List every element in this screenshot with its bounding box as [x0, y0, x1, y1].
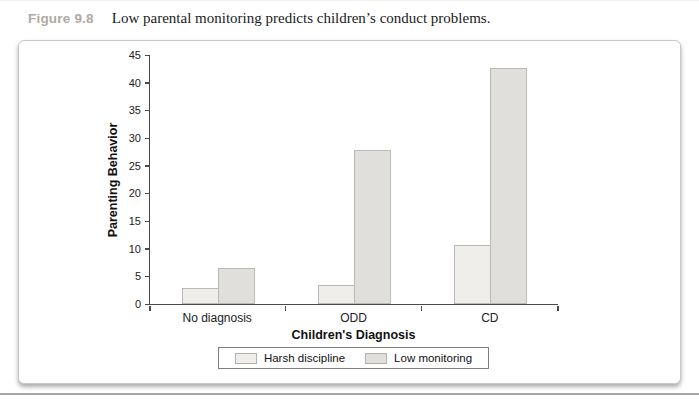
- category-label: No diagnosis: [149, 311, 285, 325]
- y-tick-mark: [145, 193, 150, 195]
- x-category-labels: No diagnosisODDCD: [149, 311, 558, 325]
- bar-harsh-discipline: [318, 285, 355, 304]
- page-top-rule: [0, 0, 699, 1]
- bar-harsh-discipline: [182, 288, 219, 304]
- category-label: ODD: [285, 311, 421, 325]
- x-axis-title: Children's Diagnosis: [149, 328, 558, 342]
- y-tick-mark: [145, 165, 150, 167]
- bar-low-monitoring: [354, 150, 391, 304]
- y-tick-label: 0: [115, 298, 141, 310]
- bar-harsh-discipline: [454, 245, 491, 304]
- figure-number-label: Figure 9.8: [28, 11, 94, 26]
- figure-caption-text: Low parental monitoring predicts childre…: [112, 10, 491, 27]
- category-label: CD: [422, 311, 558, 325]
- bar-group-no-diagnosis: [150, 55, 286, 304]
- legend-item: Low monitoring: [365, 352, 472, 364]
- y-tick-mark: [145, 110, 150, 112]
- y-tick-label: 15: [115, 215, 141, 227]
- bar-low-monitoring: [490, 68, 527, 304]
- y-tick-mark: [145, 304, 150, 306]
- legend-label: Harsh discipline: [264, 352, 345, 364]
- y-tick-mark: [145, 248, 150, 250]
- y-tick-mark: [145, 82, 150, 84]
- figure-panel: Parenting Behavior 051015202530354045 No…: [18, 40, 681, 384]
- page-bottom-rule: [0, 393, 699, 395]
- legend-swatch: [365, 353, 387, 364]
- legend-label: Low monitoring: [394, 352, 472, 364]
- y-tick-label: 5: [115, 270, 141, 282]
- y-tick-mark: [145, 221, 150, 223]
- bar-group-cd: [422, 55, 558, 304]
- y-tick-label: 45: [115, 49, 141, 61]
- figure-caption-row: Figure 9.8 Low parental monitoring predi…: [28, 10, 678, 27]
- plot-area: 051015202530354045: [149, 55, 558, 305]
- legend-swatch: [235, 353, 257, 364]
- bar-group-odd: [286, 55, 422, 304]
- y-tick-label: 35: [115, 104, 141, 116]
- y-tick-label: 40: [115, 77, 141, 89]
- bar-groups: [150, 55, 558, 304]
- legend-item: Harsh discipline: [235, 352, 345, 364]
- legend: Harsh disciplineLow monitoring: [149, 347, 558, 369]
- y-tick-label: 30: [115, 132, 141, 144]
- y-tick-label: 25: [115, 160, 141, 172]
- bar-low-monitoring: [218, 268, 255, 304]
- y-tick-mark: [145, 55, 150, 57]
- y-tick-label: 10: [115, 243, 141, 255]
- legend-box: Harsh disciplineLow monitoring: [218, 347, 489, 369]
- y-tick-mark: [145, 276, 150, 278]
- y-tick-mark: [145, 138, 150, 140]
- y-tick-label: 20: [115, 187, 141, 199]
